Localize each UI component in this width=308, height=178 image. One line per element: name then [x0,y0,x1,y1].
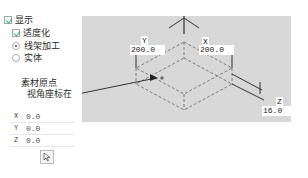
view-coords-title: 视角座标在 [27,89,72,100]
transparent-checkbox-row[interactable]: 适度化 [12,26,50,39]
coord-row-z[interactable]: Z 0.0 [10,134,74,147]
radio-solid-label: 实体 [24,51,42,64]
transparent-label: 适度化 [23,26,50,39]
coord-x-input[interactable]: 0.0 [26,112,40,121]
stock-origin-title: 素材原点 [21,78,57,89]
radio-wireframe-indicator[interactable] [12,42,20,50]
dim-y-label: Y [141,36,148,45]
coord-x-label: X [10,112,22,120]
coord-z-input[interactable]: 0.0 [26,136,40,145]
show-label: 显示 [15,13,33,26]
wireframe-box-drawing [82,16,291,122]
coord-y-input[interactable]: 0.0 [26,124,40,133]
stock-settings-panel: 显示 适度化 线架加工 实体 素材原点 视角座标在 X 0.0 Y 0.0 Z … [0,0,80,178]
transparent-checkbox[interactable] [12,29,20,37]
stock-preview-viewport: Y 200.0 X 200.0 Z 16.0 [82,16,291,122]
dim-z-label: Z [276,97,283,106]
dim-z-input[interactable]: 16.0 [262,106,297,116]
radio-solid-indicator[interactable] [12,54,20,62]
coord-y-label: Y [10,124,22,132]
dim-y-input[interactable]: 200.0 [130,45,165,55]
radio-solid[interactable]: 实体 [12,51,42,64]
pick-origin-button[interactable] [40,150,54,164]
cursor-arrow-icon [42,152,52,162]
coord-z-label: Z [10,136,22,144]
show-checkbox-row[interactable]: 显示 [4,13,33,26]
show-checkbox[interactable] [4,16,12,24]
dim-x-input[interactable]: 200.0 [199,45,234,55]
